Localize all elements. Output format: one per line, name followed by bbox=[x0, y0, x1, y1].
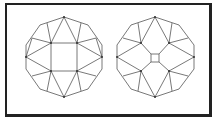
left-octagon-diagram bbox=[25, 16, 103, 98]
gem-diagrams bbox=[0, 0, 214, 119]
right-octagon-diagram bbox=[116, 16, 195, 98]
